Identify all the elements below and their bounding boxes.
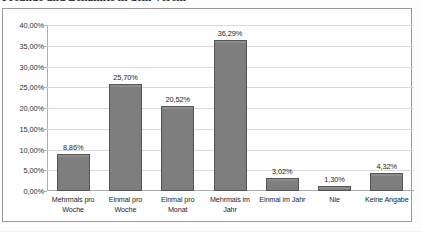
bar-value-label: 8,86% [63,143,83,152]
x-axis-label-line: Jahr [200,205,260,215]
y-axis-tick-label: 25,00% [20,83,44,92]
y-axis-tick-label: 5,00% [24,166,44,175]
y-axis-tick-label: 30,00% [20,62,44,71]
x-axis-category-label: Einmal proMonat [148,195,208,214]
bar[interactable] [57,154,90,191]
x-axis-category-label: Einmal im Jahr [252,195,312,205]
x-axis-category-label: Mehrmals proWoche [43,195,103,214]
bar[interactable] [370,173,403,191]
y-axis-tick-label: 10,00% [20,145,44,154]
y-axis-tick-label: 20,00% [20,104,44,113]
bar-value-label: 36,29% [218,29,242,38]
bar-value-label: 1,30% [324,175,344,184]
y-axis-tick [44,191,47,192]
bar[interactable] [214,40,247,191]
bar-value-label: 20,52% [165,95,189,104]
y-axis-tick-label: 40,00% [20,21,44,30]
gridline [47,25,414,26]
y-axis-tick [44,25,47,26]
x-axis-label-line: Einmal im Jahr [252,195,312,205]
bar-highlight [215,41,246,43]
bar[interactable] [266,178,299,191]
y-axis-tick [44,129,47,130]
x-axis-category-label: Keine Angabe [357,195,417,205]
x-axis-category-label: Einmal proWoche [95,195,155,214]
y-axis-tick [44,87,47,88]
x-axis-label-line: Einmal pro [95,195,155,205]
y-axis-tick [44,67,47,68]
x-axis-label-line: Woche [43,205,103,215]
y-axis-tick-label: 35,00% [20,41,44,50]
bar-highlight [319,187,350,189]
x-axis-label-line: Woche [95,205,155,215]
document-title-strip: Freunde und Bekannte in dem Verein [0,0,422,6]
x-axis-label-line: Monat [148,205,208,215]
y-axis-tick [44,108,47,109]
bar-highlight [162,107,193,109]
y-axis-labels: 0,00%5,00%10,00%15,00%20,00%25,00%30,00%… [3,25,44,191]
bar-highlight [58,155,89,157]
plot-area: 8,86%25,70%20,52%36,29%3,02%1,30%4,32% [47,25,413,191]
bar-value-label: 25,70% [113,73,137,82]
bar-highlight [371,174,402,176]
scan-artifact [0,231,422,232]
x-axis-label-line: Nie [304,195,364,205]
x-axis-label-line: Keine Angabe [357,195,417,205]
page-title: Freunde und Bekannte in dem Verein [2,0,186,3]
bar[interactable] [109,84,142,191]
x-axis-category-label: Mehrmals imJahr [200,195,260,214]
x-axis-label-line: Einmal pro [148,195,208,205]
chart-frame: 0,00%5,00%10,00%15,00%20,00%25,00%30,00%… [2,8,412,222]
y-axis-tick [44,150,47,151]
bar[interactable] [318,186,351,191]
y-axis-tick [44,170,47,171]
x-axis-label-line: Mehrmals pro [43,195,103,205]
chart-screenshot: Freunde und Bekannte in dem Verein 0,00%… [0,0,422,233]
bar[interactable] [161,106,194,191]
bar-highlight [110,85,141,87]
y-axis-tick-label: 15,00% [20,124,44,133]
bar-highlight [267,179,298,181]
y-axis-tick-label: 0,00% [24,187,44,196]
y-axis-tick [44,46,47,47]
x-axis-label-line: Mehrmals im [200,195,260,205]
bar-value-label: 3,02% [272,167,292,176]
bar-value-label: 4,32% [377,162,397,171]
x-axis-category-label: Nie [304,195,364,205]
